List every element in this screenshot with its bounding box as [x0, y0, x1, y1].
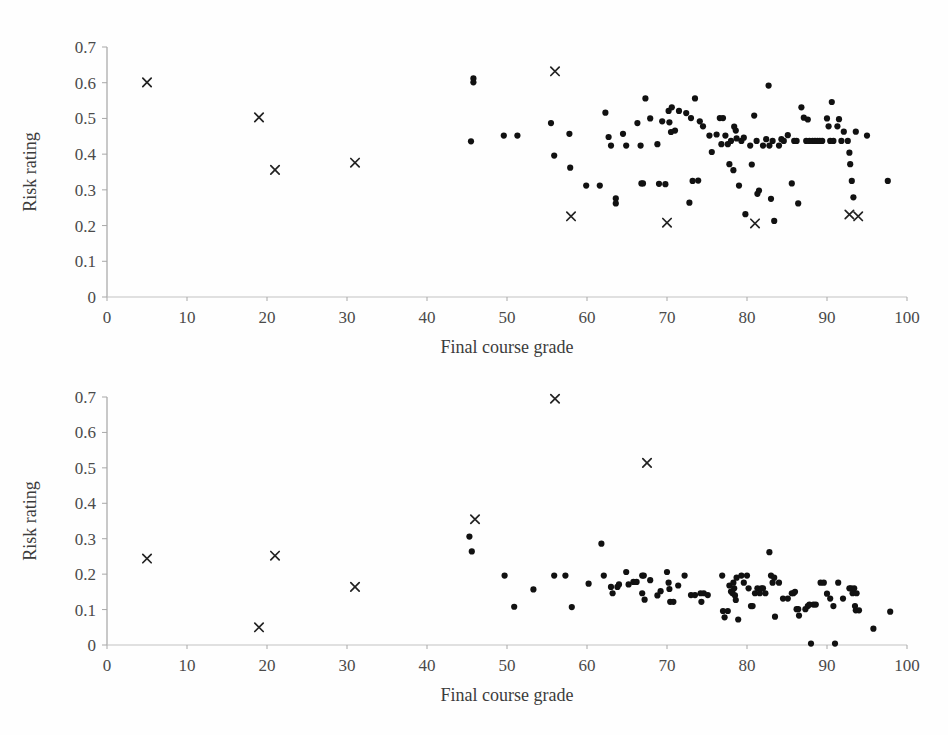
data-point-dot [836, 116, 842, 122]
data-point-dot [722, 614, 728, 620]
x-tick-label: 90 [819, 656, 836, 675]
data-point-dot [785, 595, 791, 601]
data-point-dot [741, 135, 747, 141]
data-point-dot [887, 609, 893, 615]
scatter-plot-top: 00.10.20.30.40.50.60.7010203040506070809… [0, 0, 948, 368]
data-point-dot [835, 580, 841, 586]
data-point-dot [845, 138, 851, 144]
data-point-dot [766, 82, 772, 88]
x-tick-label: 100 [894, 656, 920, 675]
data-point-dot [470, 79, 476, 85]
data-point-cross [271, 166, 279, 174]
data-point-cross [471, 515, 479, 523]
data-point-dot [567, 165, 573, 171]
data-point-dot [772, 614, 778, 620]
y-tick-label: 0.2 [75, 217, 96, 236]
x-tick-label: 0 [103, 308, 112, 327]
data-point-dot [847, 161, 853, 167]
y-tick-label: 0.4 [75, 494, 97, 513]
x-tick-label: 40 [419, 308, 436, 327]
data-point-dot [840, 595, 846, 601]
data-point-dot [795, 606, 801, 612]
data-point-dot [714, 131, 720, 137]
data-point-dot [692, 592, 698, 598]
data-point-dot [641, 572, 647, 578]
data-point-dot [819, 138, 825, 144]
data-point-cross [255, 623, 263, 631]
data-point-dot [511, 604, 517, 610]
data-point-dot [853, 129, 859, 135]
data-point-dot [829, 99, 835, 105]
data-point-dot [750, 603, 756, 609]
y-tick-label: 0.1 [75, 601, 96, 620]
data-point-dot [808, 640, 814, 646]
data-point-dot [623, 569, 629, 575]
data-point-dot [781, 138, 787, 144]
data-point-dot [728, 138, 734, 144]
data-point-dot [738, 572, 744, 578]
data-point-dot [746, 585, 752, 591]
data-point-dot [666, 586, 672, 592]
data-point-dot [666, 580, 672, 586]
data-point-dot [639, 590, 645, 596]
data-point-dot [730, 167, 736, 173]
data-point-dot [785, 132, 791, 138]
chart-panel-bottom: 00.10.20.30.40.50.60.7010203040506070809… [0, 368, 948, 735]
y-tick-label: 0.2 [75, 565, 96, 584]
data-point-dot [606, 134, 612, 140]
data-series-dots [468, 75, 891, 224]
data-point-dot [672, 127, 678, 133]
x-tick-label: 60 [579, 656, 596, 675]
data-point-dot [725, 608, 731, 614]
data-point-dot [642, 95, 648, 101]
data-point-dot [548, 120, 554, 126]
y-tick-label: 0.5 [75, 459, 96, 478]
data-point-dot [846, 150, 852, 156]
y-tick-label: 0.3 [75, 181, 96, 200]
data-point-dot [826, 123, 832, 129]
data-point-dot [789, 180, 795, 186]
data-point-dot [623, 142, 629, 148]
data-point-dot [666, 119, 672, 125]
data-point-dot [885, 178, 891, 184]
data-point-dot [834, 123, 840, 129]
data-point-dot [640, 180, 646, 186]
data-point-dot [744, 572, 750, 578]
x-tick-label: 80 [739, 308, 756, 327]
y-tick-label: 0.1 [75, 252, 96, 271]
data-series-crosses [143, 67, 863, 228]
y-axis-title: Risk rating [20, 481, 40, 561]
data-point-dot [700, 123, 706, 129]
data-point-dot [502, 572, 508, 578]
data-point-dot [776, 580, 782, 586]
y-tick-label: 0.7 [75, 38, 97, 57]
data-point-dot [654, 141, 660, 147]
data-point-dot [771, 218, 777, 224]
data-point-dot [794, 138, 800, 144]
data-point-dot [850, 194, 856, 200]
data-point-dot [642, 597, 648, 603]
data-point-dot [501, 132, 507, 138]
data-point-dot [662, 181, 668, 187]
scatter-plot-bottom: 00.10.20.30.40.50.60.7010203040506070809… [0, 368, 948, 735]
data-point-dot [832, 640, 838, 646]
data-point-cross [255, 113, 263, 121]
data-point-dot [597, 182, 603, 188]
y-tick-label: 0.5 [75, 109, 96, 128]
data-series-crosses [143, 395, 651, 632]
data-point-dot [683, 110, 689, 116]
data-point-dot [669, 104, 675, 110]
data-point-dot [569, 604, 575, 610]
data-point-dot [583, 182, 589, 188]
data-point-dot [675, 582, 681, 588]
y-tick-label: 0.3 [75, 530, 96, 549]
data-point-dot [830, 138, 836, 144]
data-point-cross [854, 212, 862, 220]
data-point-dot [763, 136, 769, 142]
data-point-dot [695, 177, 701, 183]
data-point-dot [766, 549, 772, 555]
data-point-dot [830, 603, 836, 609]
data-point-dot [742, 211, 748, 217]
data-point-cross [567, 212, 575, 220]
x-tick-label: 80 [739, 656, 756, 675]
